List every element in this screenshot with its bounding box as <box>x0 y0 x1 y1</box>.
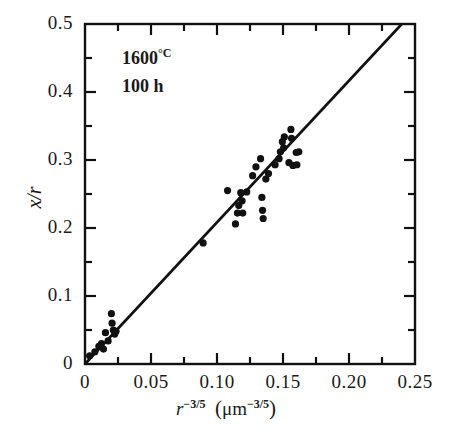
data-point <box>293 161 300 168</box>
x-axis-unit-close-paren: ) <box>269 396 276 420</box>
chart-figure: 00.10.20.30.40.5 00.050.100.150.200.25 x… <box>0 0 452 434</box>
x-axis-unit-micrometre: μm <box>222 398 247 419</box>
data-point <box>108 310 115 317</box>
y-axis-label: x/r <box>23 178 46 218</box>
data-point <box>200 239 207 246</box>
data-point <box>108 320 115 327</box>
data-point <box>105 337 112 344</box>
y-tick-label: 0.4 <box>0 80 73 102</box>
data-point <box>275 155 282 162</box>
x-axis-label-exponent: −3/5 <box>183 397 205 411</box>
data-point <box>281 133 288 140</box>
axis-ticks <box>85 24 415 364</box>
data-point <box>271 161 278 168</box>
annotation-temperature: 1600°C <box>122 46 171 69</box>
data-point <box>280 144 287 151</box>
y-tick-label: 0.3 <box>0 148 73 170</box>
data-point <box>243 188 250 195</box>
y-tick-label: 0.1 <box>0 284 73 306</box>
data-points <box>86 126 302 360</box>
annotation-duration: 100 h <box>122 76 164 97</box>
data-point <box>224 187 231 194</box>
data-point <box>287 126 294 133</box>
data-point <box>102 329 109 336</box>
data-point <box>238 197 245 204</box>
data-point <box>232 220 239 227</box>
x-axis-label: r−3/5 (μm−3/5) <box>0 396 452 421</box>
plot-frame <box>85 24 415 364</box>
x-tick-label: 0.25 <box>375 371 452 393</box>
data-point <box>258 194 265 201</box>
annotation-temperature-unit: °C <box>158 46 171 60</box>
data-point <box>265 170 272 177</box>
data-point <box>260 215 267 222</box>
data-point <box>259 207 266 214</box>
data-point <box>100 345 107 352</box>
data-point <box>295 148 302 155</box>
x-axis-unit-open-paren: ( <box>215 396 222 420</box>
data-point <box>239 209 246 216</box>
data-point <box>252 163 259 170</box>
y-tick-label: 0.2 <box>0 216 73 238</box>
data-point <box>112 328 119 335</box>
x-axis-unit-exponent: −3/5 <box>247 397 269 411</box>
data-point <box>288 135 295 142</box>
annotation-temperature-value: 1600 <box>122 48 158 68</box>
data-point <box>249 172 256 179</box>
y-tick-label: 0.5 <box>0 12 73 34</box>
data-point <box>257 155 264 162</box>
